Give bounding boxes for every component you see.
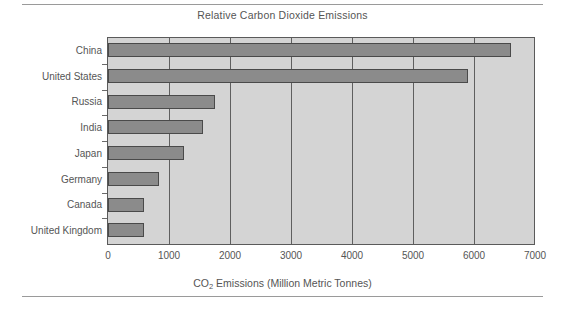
y-axis-category-labels: ChinaUnited StatesRussiaIndiaJapanGerman… [0, 38, 102, 244]
x-axis-title-subscript: 2 [209, 282, 213, 291]
bar-row [108, 90, 535, 116]
y-axis-tick [102, 167, 107, 168]
bar-china[interactable] [108, 43, 511, 57]
bar-russia[interactable] [108, 95, 215, 109]
bar-row [108, 115, 535, 141]
y-axis-tick [102, 218, 107, 219]
x-axis-title-prefix: CO [193, 277, 209, 289]
x-axis-tick-label-5000: 5000 [393, 250, 433, 261]
bar-row [108, 64, 535, 90]
y-axis-label-india: India [0, 122, 102, 133]
y-axis-label-canada: Canada [0, 199, 102, 210]
y-axis-label-united-states: United States [0, 71, 102, 82]
y-axis-tick [102, 64, 107, 65]
bar-united-states[interactable] [108, 69, 468, 83]
x-axis-tick-label-0: 0 [88, 250, 128, 261]
x-axis-tick-label-4000: 4000 [332, 250, 372, 261]
x-axis-tick-label-1000: 1000 [149, 250, 189, 261]
chart-title: Relative Carbon Dioxide Emissions [0, 9, 565, 21]
x-axis-tick-label-3000: 3000 [271, 250, 311, 261]
bar-united-kingdom[interactable] [108, 223, 144, 237]
y-axis-tick [102, 193, 107, 194]
y-axis-tick [102, 141, 107, 142]
y-axis-label-china: China [0, 45, 102, 56]
x-axis-title-suffix: Emissions (Million Metric Tonnes) [213, 277, 372, 289]
bar-japan[interactable] [108, 146, 184, 160]
bottom-divider-rule [22, 296, 543, 297]
bar-india[interactable] [108, 120, 203, 134]
x-axis-tick-label-2000: 2000 [210, 250, 250, 261]
y-axis-label-russia: Russia [0, 96, 102, 107]
bar-row [108, 167, 535, 193]
bar-germany[interactable] [108, 172, 159, 186]
bar-series [108, 38, 535, 244]
x-axis-title: CO2 Emissions (Million Metric Tonnes) [0, 277, 565, 289]
bar-row [108, 193, 535, 219]
chart-page: Relative Carbon Dioxide Emissions ChinaU… [0, 0, 565, 310]
y-axis-label-germany: Germany [0, 174, 102, 185]
y-axis-tick [102, 90, 107, 91]
y-axis-label-japan: Japan [0, 148, 102, 159]
top-divider-rule [22, 4, 543, 5]
x-axis-tick-label-6000: 6000 [454, 250, 494, 261]
bar-row [108, 141, 535, 167]
x-axis-tick-label-7000: 7000 [515, 250, 555, 261]
bar-canada[interactable] [108, 198, 144, 212]
y-axis-label-united-kingdom: United Kingdom [0, 225, 102, 236]
y-axis-tick [102, 115, 107, 116]
bar-row [108, 218, 535, 244]
bar-row [108, 38, 535, 64]
